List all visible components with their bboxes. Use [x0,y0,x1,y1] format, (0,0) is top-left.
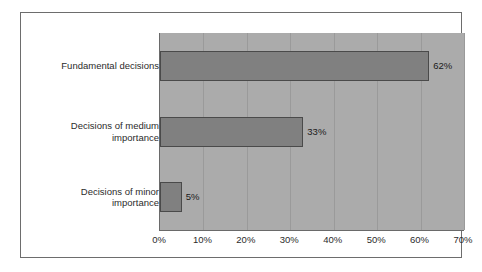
x-axis-tick-labels: 0%10%20%30%40%50%60%70% [159,234,464,254]
bar [160,51,429,81]
gridline [464,33,465,230]
x-tick-label: 60% [410,234,429,246]
plot-area: 62%33%5% [159,33,464,231]
x-tick-label: 30% [280,234,299,246]
category-label: Decisions of minor importance [41,186,159,209]
x-tick-label: 40% [323,234,342,246]
bar [160,117,303,147]
category-label: Fundamental decisions [41,60,159,72]
bar [160,182,182,212]
bar-value-label: 33% [307,127,326,137]
x-tick-label: 10% [193,234,212,246]
x-tick-label: 0% [152,234,166,246]
chart-figure: 62%33%5% Fundamental decisionsDecisions … [0,0,482,272]
x-tick-label: 20% [236,234,255,246]
x-tick-label: 70% [453,234,472,246]
bar-value-label: 62% [433,61,452,71]
figure-frame: 62%33%5% Fundamental decisionsDecisions … [20,12,462,258]
x-tick-label: 50% [367,234,386,246]
category-axis-labels: Fundamental decisionsDecisions of medium… [35,33,159,231]
bar-value-label: 5% [186,192,200,202]
category-label: Decisions of medium importance [41,120,159,143]
